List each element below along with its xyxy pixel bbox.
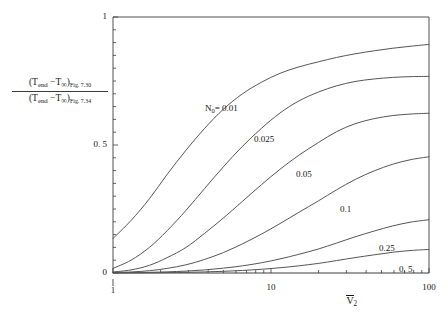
y-num-tag: Fig. 7.30 bbox=[70, 82, 91, 88]
x-axis-tick-label: 10 bbox=[256, 282, 286, 292]
y-axis-label: (Tend −T∞)Fig. 7.30 (Tend −T∞)Fig. 7.34 bbox=[12, 76, 108, 107]
y-axis-label-numerator: (Tend −T∞)Fig. 7.30 bbox=[12, 76, 108, 92]
data-curve bbox=[113, 76, 429, 268]
curve-label-0-5: 0. 5 bbox=[399, 264, 413, 274]
curve-layer bbox=[113, 44, 429, 273]
curve-label-0-05: 0.05 bbox=[296, 169, 312, 179]
y-axis-tick-label: 1 bbox=[79, 11, 107, 21]
chart-plot-area bbox=[0, 0, 448, 317]
y-axis-label-denominator: (Tend −T∞)Fig. 7.34 bbox=[12, 92, 108, 107]
y-num-subscript-end: end bbox=[38, 81, 48, 88]
y-den-tag: Fig. 7.34 bbox=[70, 98, 91, 104]
y-den-subscript-inf: ∞ bbox=[61, 96, 67, 105]
x-axis-tick-label: 100 bbox=[414, 282, 444, 292]
x-axis-label: V2 bbox=[346, 295, 357, 308]
figure-container: (Tend −T∞)Fig. 7.30 (Tend −T∞)Fig. 7.34 … bbox=[0, 0, 448, 317]
y-num-subscript-inf: ∞ bbox=[61, 80, 67, 89]
curve-label-0-1: 0.1 bbox=[340, 204, 351, 214]
data-curve bbox=[113, 157, 429, 273]
x-axis-label-base: V bbox=[346, 295, 353, 306]
x-axis-label-subscript: 2 bbox=[354, 300, 358, 308]
y-den-subscript-end: end bbox=[38, 97, 48, 104]
curve-label-0-25: 0.25 bbox=[379, 243, 395, 253]
y-axis-tick-label: 0 bbox=[79, 267, 107, 277]
curve-label-0-025: 0.025 bbox=[254, 134, 274, 144]
x-axis-tick-label: 1 bbox=[98, 285, 128, 295]
y-axis-tick-label: 0. 5 bbox=[79, 139, 107, 149]
curve-label-0-01: N0= 0.01 bbox=[205, 103, 238, 114]
